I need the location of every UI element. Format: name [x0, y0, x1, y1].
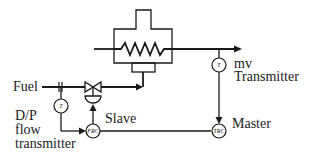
- dp-label-line2: flow: [15, 123, 41, 137]
- arrow-to-frc-icon: [79, 128, 86, 135]
- arrow-outlet-icon: [234, 46, 242, 53]
- mv-label-line2: Transmitter: [234, 70, 299, 84]
- svg-text:FRC: FRC: [86, 128, 99, 134]
- heating-coil: [114, 43, 172, 55]
- svg-text:TRC: TRC: [213, 128, 225, 134]
- arrow-to-valve-icon: [90, 104, 97, 111]
- furnace: [114, 10, 172, 63]
- arrow-to-trc-icon: [216, 117, 223, 124]
- fuel-label: Fuel: [13, 80, 38, 94]
- arrow-burner-icon: [136, 84, 143, 91]
- dp-label-line3: transmitter: [15, 137, 76, 151]
- master-label: Master: [232, 117, 271, 131]
- dp-label-line1: D/P: [15, 109, 37, 123]
- slave-label: Slave: [105, 112, 136, 126]
- valve-actuator-icon: [85, 96, 101, 103]
- burner: [132, 63, 155, 72]
